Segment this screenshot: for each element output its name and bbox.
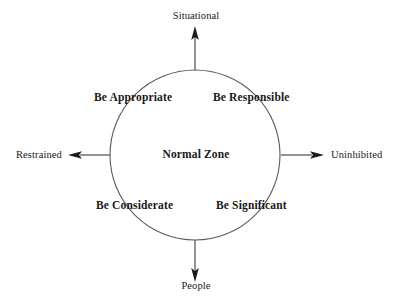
- arrow-left-icon: [68, 151, 110, 159]
- axis-label-situational: Situational: [173, 11, 220, 22]
- arrow-right-icon: [281, 151, 324, 159]
- axis-label-uninhibited: Uninhibited: [331, 150, 382, 161]
- quadrant-label-be-significant: Be Significant: [216, 200, 287, 212]
- axis-label-people: People: [181, 281, 210, 292]
- quadrant-label-be-responsible: Be Responsible: [213, 92, 290, 104]
- quadrant-label-be-considerate: Be Considerate: [96, 200, 173, 212]
- axis-label-restrained: Restrained: [16, 150, 62, 161]
- arrow-down-icon: [191, 240, 199, 282]
- arrow-up-icon: [191, 26, 199, 70]
- diagram-canvas: Situational People Restrained Uninhibite…: [0, 0, 393, 307]
- center-label-normal-zone: Normal Zone: [162, 149, 229, 161]
- quadrant-label-be-appropriate: Be Appropriate: [94, 92, 172, 104]
